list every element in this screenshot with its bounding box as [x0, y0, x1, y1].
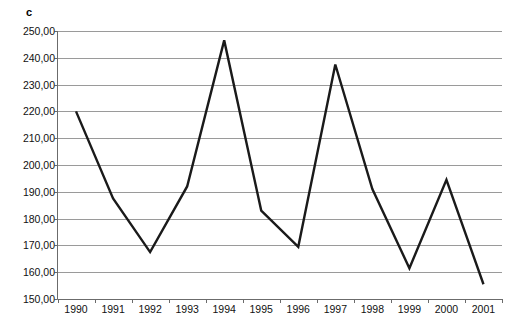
- x-axis-tick-label: 2000: [426, 304, 466, 315]
- x-axis-tick-label: 1993: [167, 304, 207, 315]
- x-axis-tick-label: 1996: [278, 304, 318, 315]
- x-axis-tick-label: 1990: [56, 304, 96, 315]
- x-axis-tick-label: 1994: [204, 304, 244, 315]
- x-axis-tick-label: 1992: [130, 304, 170, 315]
- x-axis-tick-label: 1991: [93, 304, 133, 315]
- x-axis-labels: 1990199119921993199419951996199719981999…: [0, 0, 521, 331]
- x-axis-tick-label: 1998: [352, 304, 392, 315]
- x-axis-tick-label: 2001: [463, 304, 503, 315]
- x-axis-tick-label: 1995: [241, 304, 281, 315]
- x-axis-tick-label: 1999: [389, 304, 429, 315]
- x-axis-tick-label: 1997: [315, 304, 355, 315]
- line-chart: c 150,00160,00170,00180,00190,00200,0021…: [0, 0, 521, 331]
